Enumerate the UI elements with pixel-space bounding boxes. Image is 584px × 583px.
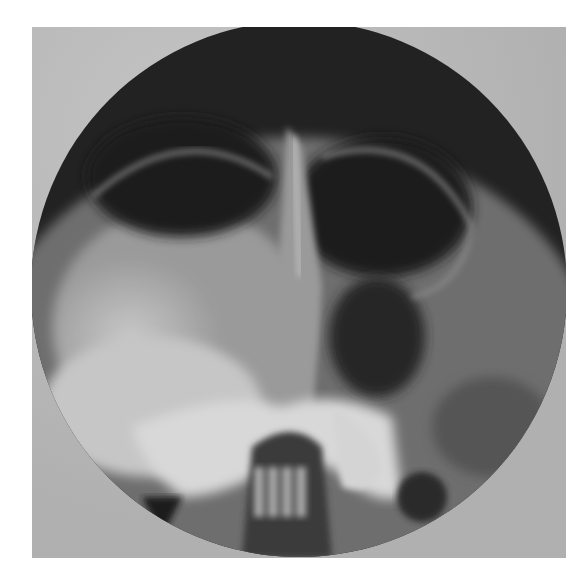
- radiograph-plate: [32, 27, 566, 558]
- radiograph-image: [32, 27, 566, 558]
